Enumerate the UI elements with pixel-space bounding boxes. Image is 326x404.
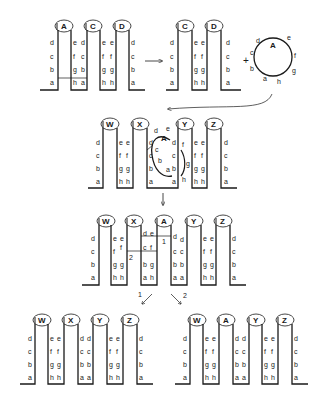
svg-text:f: f — [150, 244, 152, 251]
svg-text:b: b — [180, 261, 184, 268]
hairpin-label-Z: Z — [121, 314, 139, 326]
hairpin-label-Y: Y — [176, 118, 194, 130]
svg-text:D: D — [119, 22, 125, 31]
svg-text:h: h — [201, 79, 205, 86]
svg-text:d: d — [50, 39, 54, 46]
svg-text:g: g — [109, 361, 113, 369]
svg-text:b: b — [170, 66, 174, 73]
svg-text:b: b — [139, 361, 143, 368]
svg-text:g: g — [194, 66, 198, 74]
svg-text:g: g — [120, 261, 124, 269]
curved-arrow-down — [168, 94, 272, 109]
hairpin-label-Z: Z — [276, 314, 294, 326]
svg-text:e: e — [287, 34, 291, 41]
svg-text:b: b — [91, 261, 95, 268]
hairpin-label-A: A — [55, 20, 73, 32]
svg-text:h: h — [271, 374, 275, 381]
svg-text:c: c — [224, 152, 228, 159]
svg-text:1: 1 — [162, 238, 166, 245]
svg-text:a: a — [235, 374, 239, 381]
excised-circle-A: A d e f g h a b c — [250, 34, 296, 85]
hairpin-label-Y: Y — [185, 215, 203, 227]
svg-text:1: 1 — [138, 291, 142, 298]
hairpin-label-A: A — [155, 215, 173, 227]
svg-text:e: e — [119, 139, 123, 146]
svg-text:c: c — [180, 248, 184, 255]
hairpin-label-W: W — [188, 314, 206, 326]
svg-text:d: d — [180, 236, 184, 243]
svg-text:e: e — [109, 335, 113, 342]
svg-text:Z: Z — [211, 120, 216, 129]
svg-text:c: c — [81, 53, 85, 60]
svg-text:f: f — [212, 348, 214, 355]
svg-text:a: a — [139, 374, 143, 381]
svg-text:b: b — [235, 361, 239, 368]
svg-text:A: A — [223, 316, 229, 325]
svg-text:d: d — [81, 39, 85, 46]
svg-text:b: b — [173, 261, 177, 268]
svg-text:h: h — [150, 274, 154, 281]
svg-text:c: c — [91, 248, 95, 255]
svg-text:f: f — [201, 152, 203, 159]
svg-text:A: A — [61, 22, 67, 31]
svg-text:c: c — [139, 348, 143, 355]
svg-text:h: h — [194, 178, 198, 185]
svg-text:c: c — [50, 53, 54, 60]
svg-text:f: f — [73, 53, 75, 60]
svg-text:e: e — [50, 335, 54, 342]
svg-text:C: C — [182, 22, 188, 31]
svg-text:e: e — [271, 335, 275, 342]
svg-text:h: h — [182, 176, 186, 183]
svg-text:f: f — [203, 248, 205, 255]
svg-text:g: g — [113, 261, 117, 269]
svg-text:e: e — [73, 39, 77, 46]
svg-text:b: b — [224, 165, 228, 172]
hairpin-label-W: W — [97, 215, 115, 227]
svg-text:e: e — [113, 235, 117, 242]
svg-text:c: c — [131, 53, 135, 60]
svg-text:e: e — [194, 139, 198, 146]
svg-text:c: c — [143, 244, 147, 251]
svg-text:d: d — [87, 335, 91, 342]
hairpin-label-Z: Z — [205, 118, 223, 130]
row1-left-structure: A C D dcba efgh dcba efgh efgh dcba — [40, 20, 145, 90]
svg-text:d: d — [242, 335, 246, 342]
svg-text:W: W — [106, 120, 114, 129]
svg-text:e: e — [264, 335, 268, 342]
svg-text:g: g — [119, 165, 123, 173]
svg-text:e: e — [166, 125, 170, 132]
svg-text:f: f — [271, 348, 273, 355]
row2-letters: dcba efgh efgh dcba dcba efgh efgh dcba — [96, 139, 228, 185]
pathway-arrows: 1 2 — [138, 291, 187, 304]
svg-text:e: e — [110, 39, 114, 46]
svg-text:h: h — [57, 374, 61, 381]
svg-text:g: g — [194, 165, 198, 173]
svg-text:b: b — [242, 361, 246, 368]
svg-text:f: f — [110, 53, 112, 60]
svg-text:h: h — [212, 374, 216, 381]
svg-text:b: b — [87, 361, 91, 368]
svg-text:g: g — [210, 261, 214, 269]
svg-text:h: h — [50, 374, 54, 381]
svg-text:h: h — [201, 178, 205, 185]
svg-text:g: g — [212, 361, 216, 369]
svg-text:h: h — [277, 78, 281, 85]
svg-text:d: d — [256, 37, 260, 44]
svg-text:a: a — [96, 178, 100, 185]
svg-text:A: A — [161, 217, 167, 226]
svg-text:b: b — [143, 261, 147, 268]
svg-text:g: g — [126, 165, 130, 173]
svg-text:d: d — [80, 335, 84, 342]
svg-text:c: c — [232, 248, 236, 255]
svg-text:d: d — [226, 39, 230, 46]
svg-text:a: a — [226, 79, 230, 86]
svg-text:b: b — [232, 261, 236, 268]
svg-text:Z: Z — [220, 217, 225, 226]
svg-text:h: h — [203, 274, 207, 281]
hairpin-label-Y: Y — [247, 314, 265, 326]
svg-text:h: h — [116, 374, 120, 381]
svg-text:c: c — [226, 53, 230, 60]
svg-text:f: f — [113, 248, 115, 255]
svg-text:a: a — [172, 178, 176, 185]
svg-text:c: c — [250, 49, 254, 56]
